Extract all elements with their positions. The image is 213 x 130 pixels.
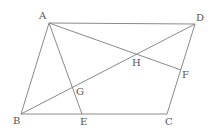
segment-ba <box>21 23 49 114</box>
segments-group <box>21 23 195 114</box>
point-label-f: F <box>182 69 189 80</box>
point-label-c: C <box>165 116 173 127</box>
segment-dc <box>167 24 195 114</box>
segment-ae <box>49 23 82 114</box>
point-label-h: H <box>132 57 141 68</box>
segment-ad <box>49 23 195 24</box>
geometry-diagram: ADBECFHG <box>0 0 213 130</box>
segment-bd <box>21 24 195 114</box>
point-label-e: E <box>80 116 87 127</box>
segment-af <box>49 23 181 70</box>
point-label-a: A <box>38 10 47 21</box>
point-label-b: B <box>13 115 20 126</box>
point-label-d: D <box>196 12 204 23</box>
point-label-g: G <box>76 86 84 97</box>
